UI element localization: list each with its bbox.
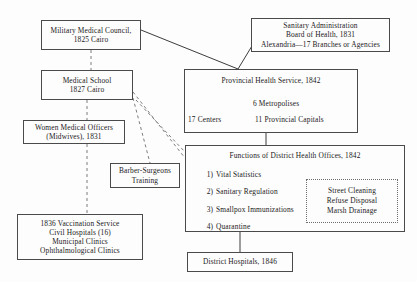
node-line: 1827 Cairo xyxy=(70,85,105,94)
node-women-medical-officers[interactable]: Women Medical Officers (Midwives), 1831 xyxy=(23,120,125,144)
detail-line: Street Cleaning xyxy=(328,186,376,196)
provincial-centers-label: 17 Centers xyxy=(188,115,221,124)
sanitary-regulation-detail-box: Street Cleaning Refuse Disposal Marsh Dr… xyxy=(306,179,398,223)
list-item-label: Smallpox Immunizations xyxy=(216,206,294,213)
list-item-number: 2) xyxy=(204,188,216,195)
node-provincial-health-service[interactable]: Provincial Health Service, 1842 6 Metrop… xyxy=(184,69,358,133)
node-barber-surgeons-training[interactable]: Barber-Surgeons Training xyxy=(110,163,180,188)
functions-title: Functions of District Health Offices, 18… xyxy=(186,151,404,160)
provincial-metropolises-label: 6 Metropolises xyxy=(253,99,299,108)
edge-school-to-functions-b xyxy=(136,100,185,152)
list-item-number: 1) xyxy=(204,171,216,178)
edge-school-to-barber xyxy=(133,98,150,163)
list-item-number: 3) xyxy=(204,206,216,213)
diagram-canvas: Military Medical Council, 1825 Cairo San… xyxy=(0,0,417,282)
list-item: 4) Quarantine xyxy=(204,223,294,230)
node-line: Municipal Clinics xyxy=(52,237,108,246)
list-item-number: 4) xyxy=(204,223,216,230)
list-item: 1) Vital Statistics xyxy=(204,171,294,178)
provincial-health-service-title: Provincial Health Service, 1842 xyxy=(185,76,357,85)
node-line: District Hospitals, 1846 xyxy=(203,257,277,266)
node-district-hospitals[interactable]: District Hospitals, 1846 xyxy=(187,252,293,272)
node-medical-school[interactable]: Medical School 1827 Cairo xyxy=(41,70,133,100)
list-item: 3) Smallpox Immunizations xyxy=(204,206,294,213)
node-military-medical-council[interactable]: Military Medical Council, 1825 Cairo xyxy=(41,20,141,50)
node-line: Women Medical Officers xyxy=(35,123,113,132)
node-line: Military Medical Council, xyxy=(50,26,131,35)
edge-military-to-provincial xyxy=(141,30,238,69)
provincial-capitals-label: 11 Provincial Capitals xyxy=(255,115,324,124)
node-vaccination-service[interactable]: 1836 Vaccination Service Civil Hospitals… xyxy=(17,214,143,260)
list-item-label: Vital Statistics xyxy=(216,171,261,178)
node-line: Alexandria—17 Branches or Agencies xyxy=(261,40,380,49)
node-line: Civil Hospitals (16) xyxy=(49,228,111,237)
list-item-label: Sanitary Regulation xyxy=(216,188,278,195)
functions-list: 1) Vital Statistics 2) Sanitary Regulati… xyxy=(204,171,294,241)
node-line: Sanitary Administration xyxy=(283,21,357,30)
detail-line: Refuse Disposal xyxy=(327,196,378,206)
node-line: Board of Health, 1831 xyxy=(286,30,355,39)
list-item-label: Quarantine xyxy=(216,223,250,230)
node-functions-district-health-offices[interactable]: Functions of District Health Offices, 18… xyxy=(185,145,405,232)
detail-line: Marsh Drainage xyxy=(327,206,377,216)
list-item: 2) Sanitary Regulation xyxy=(204,188,294,195)
node-line: 1836 Vaccination Service xyxy=(41,219,120,228)
node-line: Training xyxy=(132,176,158,185)
node-sanitary-administration[interactable]: Sanitary Administration Board of Health,… xyxy=(251,18,390,52)
node-line: Ophthalmological Clinics xyxy=(40,246,120,255)
node-line: Barber-Surgeons xyxy=(119,166,171,175)
edge-school-to-functions-a xyxy=(133,92,185,158)
node-line: 1825 Cairo xyxy=(74,35,109,44)
node-line: Medical School xyxy=(63,76,112,85)
node-line: (Midwives), 1831 xyxy=(46,132,101,141)
